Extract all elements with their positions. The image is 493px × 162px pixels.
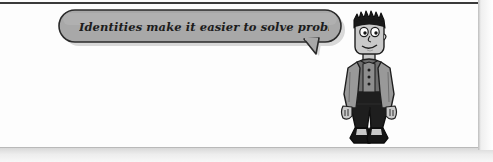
speech-bubble: Identities make it easier to solve probl…	[57, 8, 347, 56]
page-right-edge-shadow	[481, 0, 493, 150]
speech-bubble-text: Identities make it easier to solve probl…	[79, 16, 329, 38]
textbook-page: Identities make it easier to solve probl…	[0, 0, 493, 162]
page-bottom-band	[0, 148, 493, 162]
cartoon-character-illustration	[330, 8, 408, 148]
top-horizontal-rule	[0, 2, 481, 4]
character-shoes	[350, 128, 388, 143]
